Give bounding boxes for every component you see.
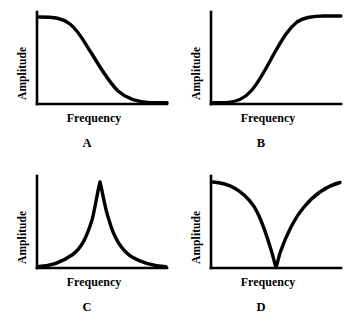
panel-c-curve	[39, 182, 166, 267]
panel-c-x-axis-label: Frequency	[34, 276, 154, 288]
filter-response-figure: Amplitude Frequency A Amplitude Frequenc…	[0, 0, 348, 323]
panel-a: Amplitude Frequency A	[0, 0, 174, 161]
panel-b-y-axis-label: Amplitude	[191, 47, 203, 100]
panel-a-curve	[39, 17, 167, 103]
panel-b-x-axis-label: Frequency	[208, 112, 328, 124]
panel-a-x-axis-label: Frequency	[34, 112, 154, 124]
panel-b-curve	[213, 16, 341, 103]
panel-d-y-axis-label: Amplitude	[191, 211, 203, 264]
panel-a-y-axis-label: Amplitude	[17, 47, 29, 100]
panel-d-x-axis-label: Frequency	[208, 276, 328, 288]
panel-d-curve	[213, 182, 340, 268]
panel-a-letter: A	[0, 137, 174, 150]
panel-c-y-axis-label: Amplitude	[17, 211, 29, 264]
panel-b: Amplitude Frequency B	[174, 0, 348, 161]
panel-b-letter: B	[174, 137, 348, 150]
panel-d-letter: D	[174, 301, 348, 314]
panel-c: Amplitude Frequency C	[0, 162, 174, 323]
panel-c-letter: C	[0, 301, 174, 314]
panel-d: Amplitude Frequency D	[174, 162, 348, 323]
